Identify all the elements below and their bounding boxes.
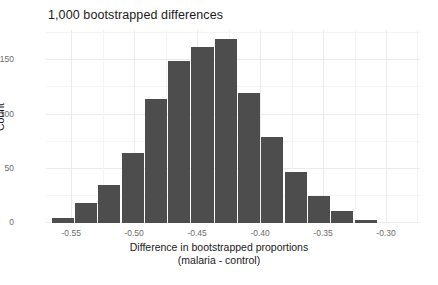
gridline-minor-vertical bbox=[417, 30, 418, 223]
plot-panel bbox=[46, 30, 420, 223]
histogram-bar bbox=[261, 137, 283, 223]
chart-title: 1,000 bootstrapped differences bbox=[48, 8, 223, 22]
histogram-bar bbox=[75, 203, 97, 223]
x-axis-tick-label: -0.35 bbox=[313, 228, 332, 238]
histogram-bar bbox=[145, 99, 167, 223]
gridline-major-vertical bbox=[386, 30, 387, 223]
x-axis-tick-label: -0.45 bbox=[187, 228, 206, 238]
y-axis-tick-label: 150 bbox=[0, 54, 14, 64]
histogram-bar bbox=[168, 61, 190, 223]
histogram-bar bbox=[355, 220, 377, 223]
y-axis-tick-label: 0 bbox=[9, 217, 14, 227]
histogram-bar bbox=[52, 218, 74, 223]
x-axis-title-line2: (malaria - control) bbox=[0, 254, 438, 267]
histogram-bar bbox=[215, 39, 237, 223]
x-axis-tick-label: -0.40 bbox=[250, 228, 269, 238]
x-axis-tick-label: -0.55 bbox=[61, 228, 80, 238]
histogram-bar bbox=[285, 172, 307, 223]
histogram-bar bbox=[331, 211, 353, 223]
histogram-bar bbox=[308, 196, 330, 223]
y-axis-title: Count bbox=[0, 103, 6, 131]
gridline-major-vertical bbox=[71, 30, 72, 223]
x-axis-tick-label: -0.30 bbox=[376, 228, 395, 238]
histogram-bar bbox=[122, 153, 144, 223]
y-axis-tick-label: 50 bbox=[5, 163, 14, 173]
gridline-minor-vertical bbox=[355, 30, 356, 223]
x-axis-title: Difference in bootstrapped proportions (… bbox=[0, 241, 438, 267]
histogram-chart: 1,000 bootstrapped differences 050100150… bbox=[0, 0, 438, 285]
x-axis-title-line1: Difference in bootstrapped proportions bbox=[130, 241, 308, 253]
histogram-bar bbox=[98, 185, 120, 223]
x-axis-tick-label: -0.50 bbox=[124, 228, 143, 238]
histogram-bar bbox=[191, 47, 213, 223]
histogram-bar bbox=[238, 93, 260, 223]
gridline-major-vertical bbox=[323, 30, 324, 223]
